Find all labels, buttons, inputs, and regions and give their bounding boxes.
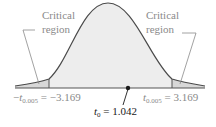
right-region-label-line2: region [146,23,175,35]
left-region-pointer [23,30,39,84]
test-statistic-label: t0 = 1.042 [94,105,137,119]
t-distribution-figure: Critical region Critical region −t0.005 … [0,0,216,127]
left-region-label-line1: Critical [42,9,75,21]
test-statistic-pointer [123,89,128,105]
right-critical-value-label: t0.005 = 3.169 [143,91,199,105]
left-region-label-line2: region [42,23,71,35]
left-critical-value-label: −t0.005 = −3.169 [13,91,81,105]
right-region-label-line1: Critical [146,9,179,21]
right-region-pointer [180,33,196,84]
